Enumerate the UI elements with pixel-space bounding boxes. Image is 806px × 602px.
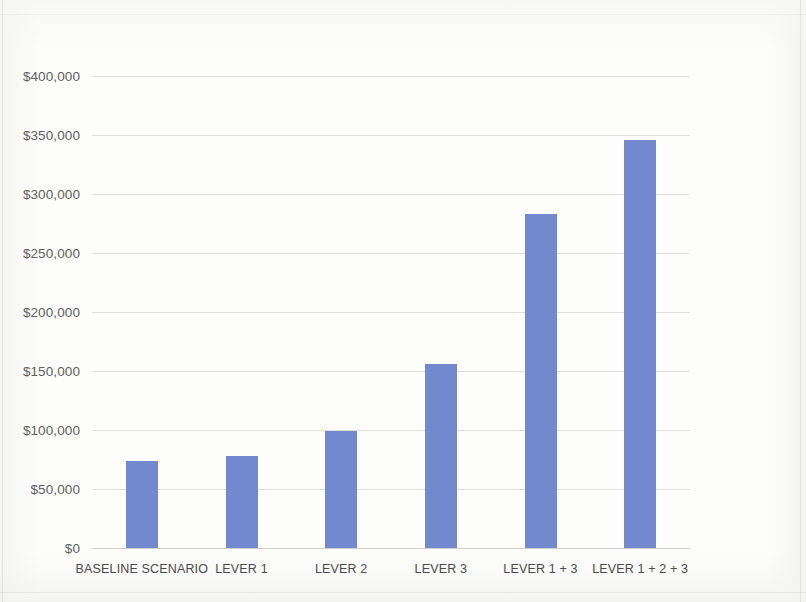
scanned-chart-page: $0$50,000$100,000$150,000$200,000$250,00…	[0, 0, 806, 602]
gridline	[92, 430, 690, 431]
x-axis-category-label: LEVER 3	[415, 562, 467, 576]
gridline	[92, 312, 690, 313]
y-axis-tick-label: $100,000	[0, 423, 80, 438]
y-axis-tick-label: $150,000	[0, 364, 80, 379]
bar	[425, 364, 457, 548]
scan-edge-left	[2, 0, 3, 602]
scan-streak-bottom	[0, 592, 806, 593]
gridline	[92, 194, 690, 195]
scan-streak-top	[0, 14, 806, 15]
y-axis-tick-label: $0	[0, 541, 80, 556]
y-axis-tick-label: $200,000	[0, 305, 80, 320]
gridline	[92, 76, 690, 77]
y-axis-tick-label: $250,000	[0, 246, 80, 261]
y-axis-tick-label: $350,000	[0, 128, 80, 143]
bar	[624, 140, 656, 548]
x-axis-category-label: BASELINE SCENARIO	[76, 562, 208, 576]
x-axis-category-label: LEVER 2	[315, 562, 367, 576]
y-axis-tick-label: $50,000	[0, 482, 80, 497]
x-axis-category-label: LEVER 1 + 2 + 3	[592, 562, 688, 576]
bar	[226, 456, 258, 548]
gridline	[92, 253, 690, 254]
chart-plot-area	[92, 76, 690, 548]
bar	[126, 461, 158, 548]
y-axis-tick-label: $400,000	[0, 69, 80, 84]
y-axis-tick-label: $300,000	[0, 187, 80, 202]
gridline	[92, 489, 690, 490]
gridline	[92, 548, 690, 549]
x-axis-category-label: LEVER 1	[215, 562, 267, 576]
bar	[325, 431, 357, 548]
scan-edge-right	[800, 0, 801, 602]
bar	[525, 214, 557, 548]
gridline	[92, 135, 690, 136]
x-axis-category-label: LEVER 1 + 3	[503, 562, 577, 576]
gridline	[92, 371, 690, 372]
